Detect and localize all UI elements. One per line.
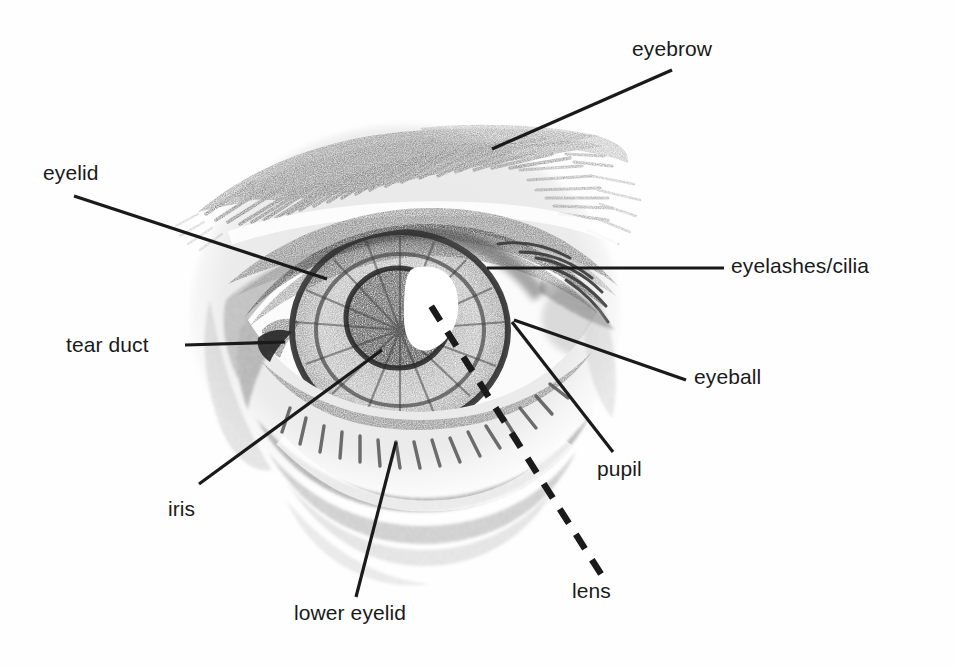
label-eyebrow: eyebrow bbox=[632, 38, 712, 59]
label-tear-duct: tear duct bbox=[66, 334, 149, 355]
eye-anatomy-diagram: eyebrow eyelid eyelashes/cilia tear duct… bbox=[0, 0, 954, 666]
label-eyelid: eyelid bbox=[43, 162, 98, 183]
label-lower-eyelid: lower eyelid bbox=[294, 602, 406, 623]
eye-sketch-illustration bbox=[176, 125, 640, 586]
label-eyelashes-cilia: eyelashes/cilia bbox=[731, 255, 869, 276]
label-pupil: pupil bbox=[597, 458, 642, 479]
label-iris: iris bbox=[168, 498, 195, 519]
label-eyeball: eyeball bbox=[694, 366, 761, 387]
label-lens: lens bbox=[572, 580, 611, 601]
